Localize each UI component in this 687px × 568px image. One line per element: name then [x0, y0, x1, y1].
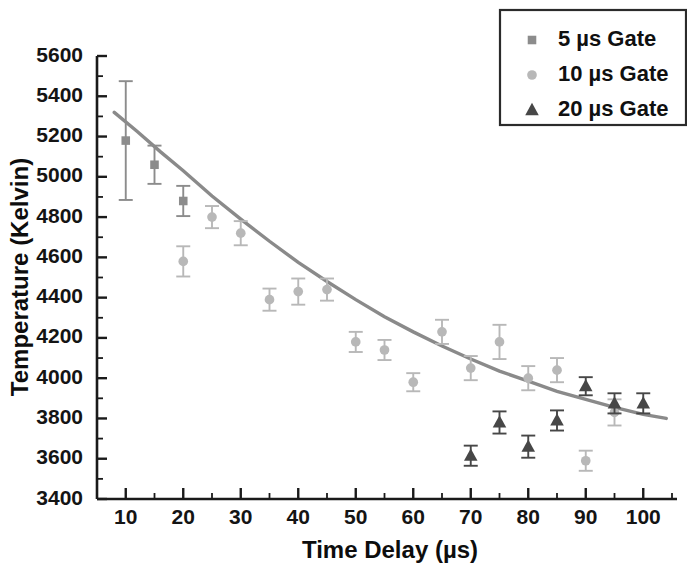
data-series-group	[119, 81, 651, 471]
marker-triangle	[521, 440, 535, 452]
marker-circle	[380, 345, 390, 355]
marker-circle	[527, 70, 537, 80]
x-tick-label: 20	[172, 505, 195, 528]
data-point	[291, 279, 305, 305]
x-tick-label: 90	[574, 505, 597, 528]
marker-circle	[495, 337, 505, 347]
y-tick-label: 5400	[36, 83, 83, 106]
y-tick-label: 4400	[36, 284, 83, 307]
marker-circle	[293, 287, 303, 297]
marker-square	[179, 197, 188, 206]
x-tick-label: 10	[114, 505, 137, 528]
data-point	[464, 446, 478, 466]
y-tick-label: 4800	[36, 204, 83, 227]
data-point	[349, 332, 363, 352]
y-tick-label: 4600	[36, 244, 83, 267]
fit-curve-path	[114, 112, 666, 418]
data-point	[493, 411, 507, 433]
chart-legend: 5 µs Gate10 µs Gate20 µs Gate	[500, 10, 686, 125]
data-point	[320, 279, 334, 301]
data-point	[521, 436, 535, 458]
marker-circle	[523, 373, 533, 383]
y-axis-title: Temperature (Kelvin)	[6, 158, 33, 396]
marker-circle	[207, 212, 217, 222]
data-point	[493, 325, 507, 359]
marker-circle	[351, 337, 361, 347]
marker-circle	[265, 295, 275, 305]
legend-item-label: 10 µs Gate	[558, 61, 669, 86]
marker-circle	[236, 228, 246, 238]
data-point	[176, 246, 190, 276]
marker-square	[528, 36, 537, 45]
y-tick-label: 5200	[36, 123, 83, 146]
temperature-vs-time-delay-chart: 3400360038004000420044004600480050005200…	[0, 0, 687, 568]
data-point	[608, 393, 622, 413]
marker-circle	[322, 285, 332, 295]
marker-triangle	[636, 396, 650, 408]
x-axis-title: Time Delay (µs)	[302, 536, 478, 563]
x-tick-label: 60	[402, 505, 425, 528]
x-tick-label: 80	[517, 505, 540, 528]
x-tick-label: 50	[344, 505, 367, 528]
marker-square	[150, 160, 159, 169]
data-point	[119, 81, 133, 200]
y-tick-label: 3800	[36, 405, 83, 428]
legend-item-label: 20 µs Gate	[558, 96, 669, 121]
y-tick-label: 4200	[36, 324, 83, 347]
marker-circle	[466, 363, 476, 373]
marker-triangle	[493, 415, 507, 427]
y-tick-label: 3400	[36, 486, 83, 509]
y-tick-label: 5600	[36, 43, 83, 66]
marker-circle	[552, 365, 562, 375]
data-point	[550, 358, 564, 382]
y-axis-tick-labels: 3400360038004000420044004600480050005200…	[36, 43, 83, 509]
marker-circle	[581, 456, 591, 466]
marker-circle	[408, 377, 418, 387]
chart-canvas: 3400360038004000420044004600480050005200…	[0, 0, 687, 568]
x-tick-label: 40	[287, 505, 310, 528]
marker-circle	[437, 327, 447, 337]
marker-circle	[178, 257, 188, 267]
data-point	[205, 206, 219, 228]
data-point	[435, 320, 449, 344]
marker-triangle	[550, 413, 564, 425]
data-point	[378, 340, 392, 360]
x-tick-label: 30	[229, 505, 252, 528]
marker-triangle	[464, 449, 478, 461]
marker-square	[121, 136, 130, 145]
series-1	[119, 81, 191, 216]
y-tick-label: 3600	[36, 445, 83, 468]
x-tick-label: 70	[459, 505, 482, 528]
data-point	[550, 410, 564, 430]
fit-curve	[114, 112, 666, 418]
y-tick-label: 4000	[36, 365, 83, 388]
data-point	[406, 373, 420, 391]
legend-item-label: 5 µs Gate	[558, 26, 656, 51]
data-point	[176, 186, 190, 216]
data-point	[579, 451, 593, 471]
y-tick-label: 5000	[36, 163, 83, 186]
data-point	[636, 393, 650, 413]
x-tick-label: 100	[626, 505, 661, 528]
x-axis-tick-labels: 102030405060708090100	[114, 505, 661, 528]
marker-triangle	[579, 379, 593, 391]
marker-triangle	[608, 396, 622, 408]
data-point	[263, 289, 277, 311]
data-point	[579, 377, 593, 395]
